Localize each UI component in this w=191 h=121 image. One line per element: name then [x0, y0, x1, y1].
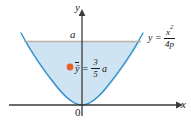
curve-equation-numerator: x2 — [165, 26, 174, 37]
curve-equation-equals: = — [154, 33, 162, 43]
curve-equation-label: y = x2 4p — [148, 26, 175, 49]
curve-equation-lhs: y — [148, 33, 152, 43]
height-label-a: a — [70, 29, 76, 40]
curve-equation-fraction: x2 4p — [164, 26, 175, 49]
parabola-centroid-figure: y x 0 a y = x2 4p ȳ = 3 5 a — [0, 0, 191, 121]
curve-equation-denominator: 4p — [164, 40, 175, 49]
centroid-dot — [67, 64, 74, 71]
centroid-equation-label: ȳ = 3 5 a — [75, 58, 107, 79]
centroid-equation-factor: a — [102, 64, 107, 74]
centroid-equation-lhs: ȳ — [75, 64, 79, 74]
centroid-equation-fraction: 3 5 — [91, 58, 100, 79]
centroid-equation-numerator: 3 — [92, 58, 99, 67]
origin-label: 0 — [75, 107, 81, 118]
centroid-equation-equals: = — [81, 64, 89, 74]
centroid-equation-denominator: 5 — [92, 70, 99, 79]
curve-equation-exponent: 2 — [170, 23, 173, 30]
y-axis-label: y — [75, 2, 80, 13]
x-axis-label: x — [181, 99, 186, 110]
